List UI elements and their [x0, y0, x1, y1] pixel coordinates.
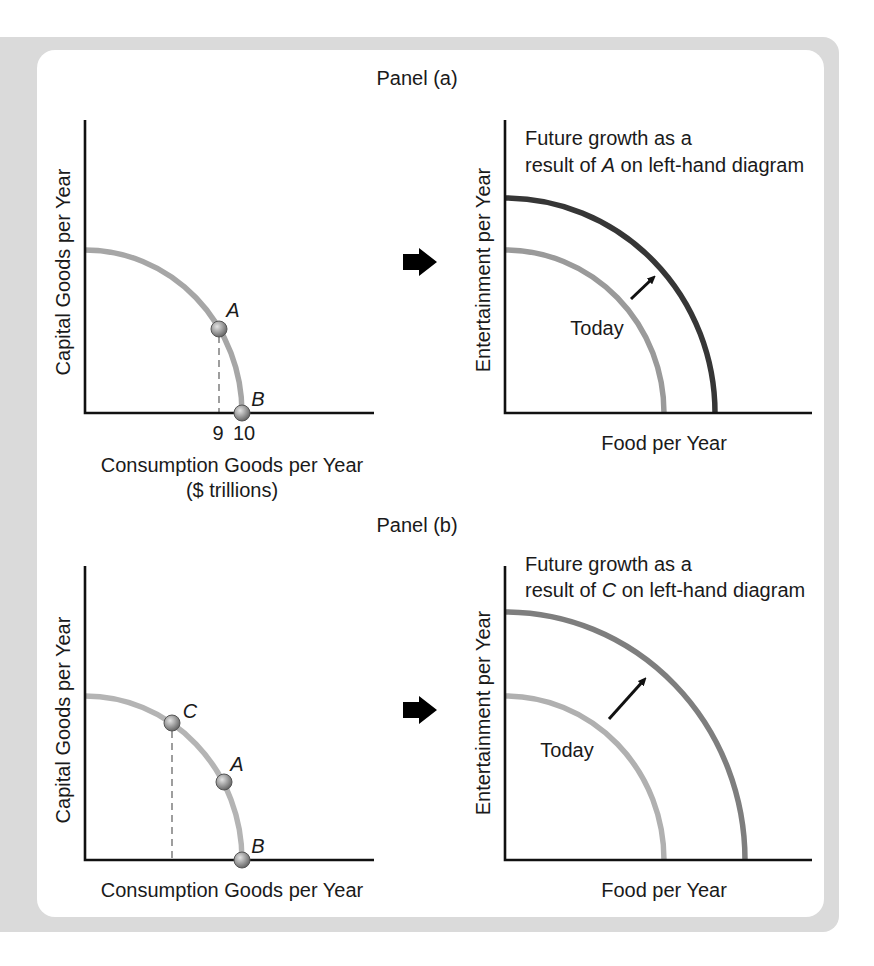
point-a-marker — [211, 321, 227, 337]
panel-a-title: Panel (a) — [376, 67, 457, 89]
caption-suffix: on left-hand diagram — [615, 154, 804, 176]
y-axis-label: Capital Goods per Year — [52, 168, 74, 375]
today-label: Today — [540, 739, 593, 761]
arrow-right-icon — [403, 696, 437, 724]
figure: Panel (a) Capital Goods per Year A B 9 1… — [0, 0, 874, 966]
y-axis-label: Capital Goods per Year — [52, 616, 74, 823]
x-axis-unit: ($ trillions) — [186, 479, 278, 501]
growth-arrow-icon — [609, 680, 644, 719]
panel-b-title: Panel (b) — [376, 514, 457, 536]
point-b-marker — [234, 405, 250, 421]
growth-arrow-icon — [631, 278, 653, 299]
point-c-label: C — [183, 700, 198, 722]
y-axis-label: Entertainment per Year — [472, 610, 494, 815]
point-b-label: B — [251, 388, 264, 410]
ppf-today-curve — [505, 696, 664, 860]
x-axis-label: Consumption Goods per Year — [101, 879, 364, 901]
y-axis-label: Entertainment per Year — [472, 167, 494, 372]
point-a-label: A — [229, 753, 243, 775]
today-label: Today — [570, 317, 623, 339]
growth-caption-line1: Future growth as a — [525, 553, 693, 575]
panel-b-right-diagram: Future growth as a result of C on left-h… — [472, 553, 812, 901]
point-a-marker — [216, 774, 232, 790]
caption-point: C — [602, 579, 617, 601]
axes — [85, 566, 374, 860]
caption-suffix: on left-hand diagram — [616, 579, 805, 601]
point-b-label: B — [251, 835, 264, 857]
panel-a-left-diagram: Capital Goods per Year A B 9 10 Consumpt… — [52, 120, 374, 501]
caption-prefix: result of — [525, 579, 602, 601]
caption-point: A — [601, 154, 615, 176]
arrow-right-icon — [403, 248, 437, 276]
growth-caption-line2: result of C on left-hand diagram — [525, 579, 805, 601]
ppf-future-curve — [505, 612, 745, 860]
panel-b: Panel (b) Capital Goods per Year C A B C… — [52, 514, 812, 901]
growth-caption-line2: result of A on left-hand diagram — [525, 154, 804, 176]
x-axis-label: Food per Year — [601, 879, 727, 901]
ppf-future-curve — [505, 198, 715, 413]
point-a-label: A — [225, 299, 239, 321]
x-tick-10: 10 — [233, 422, 255, 444]
x-axis-label: Consumption Goods per Year — [101, 454, 364, 476]
caption-prefix: result of — [525, 154, 602, 176]
point-c-marker — [164, 715, 180, 731]
panel-a-right-diagram: Future growth as a result of A on left-h… — [472, 120, 812, 454]
x-tick-9: 9 — [212, 422, 223, 444]
point-b-marker — [234, 852, 250, 868]
panel-a: Panel (a) Capital Goods per Year A B 9 1… — [52, 67, 812, 501]
x-axis-label: Food per Year — [601, 432, 727, 454]
growth-caption-line1: Future growth as a — [525, 127, 693, 149]
axes — [85, 120, 374, 413]
panel-b-left-diagram: Capital Goods per Year C A B Consumption… — [52, 566, 374, 901]
